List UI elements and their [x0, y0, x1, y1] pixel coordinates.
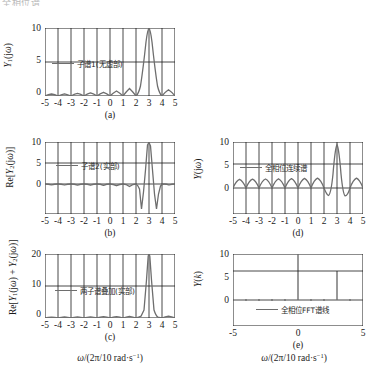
panel-d-legend: 全相位连续谱: [240, 162, 307, 173]
panel-b-legend-label: 子谱2(实部): [81, 160, 120, 171]
panel-e-plot: [233, 254, 363, 326]
panel-e: Y(k) 10 5 0: [184, 240, 368, 344]
panel-e-legend: 全相位FFT谱线: [256, 304, 329, 315]
panel-d-ylabel: Y(jω): [193, 145, 203, 193]
panel-e-xtick--5: -5: [223, 328, 243, 338]
panel-a-ytick-5: 5: [19, 55, 41, 65]
panel-b-xtick-5: 5: [165, 216, 185, 226]
panel-e-xtick-0: 0: [288, 328, 308, 338]
panel-b-legend: 子谱2(实部): [56, 160, 120, 171]
figure-root: 全相位谱 Y1(jω) 10 5 0: [0, 0, 368, 370]
panel-b-plot: [45, 142, 175, 214]
panel-c-ytick-20: 20: [16, 249, 41, 259]
panel-c-legend-line: [55, 290, 77, 291]
panel-a-ytick-0: 0: [19, 87, 41, 97]
panel-e-ylabel: Y(k): [193, 257, 203, 301]
panel-b-caption: (b): [80, 228, 140, 238]
panel-e-ytick-10: 10: [207, 249, 229, 259]
panel-d-caption: (d): [268, 228, 328, 238]
panel-a-ytick-10: 10: [19, 23, 41, 33]
left-column-xaxis-title: ω/(2π/10 rad·s−1): [30, 352, 190, 363]
panel-b-ytick-10: 10: [19, 137, 41, 147]
panel-d-ytick-0: 0: [207, 183, 229, 193]
panel-e-legend-label: 全相位FFT谱线: [281, 304, 329, 315]
panel-a-legend: 子谱1(无虚部): [52, 58, 123, 69]
right-column-xaxis-title: ω/(2π/10 rad·s−1): [214, 352, 368, 363]
panel-b-ytick-5: 5: [19, 158, 41, 168]
panel-c-ytick-0: 0: [16, 309, 41, 319]
panel-b-ylabel: Re[Y2(jω)]: [5, 137, 16, 197]
panel-c: Re[Y1(jω) + Y2(jω)] 20 10 0: [0, 240, 184, 344]
panel-a-legend-line: [52, 63, 74, 64]
panel-d-legend-line: [240, 167, 262, 168]
panel-c-legend-label: 两子谱叠加(实部): [80, 285, 135, 296]
panel-a: Y1(jω) 10 5 0: [0, 14, 184, 114]
panel-d: Y(jω) 10 5 0: [184, 128, 368, 232]
panel-c-ytick-10: 10: [16, 279, 41, 289]
panel-a-legend-label: 子谱1(无虚部): [77, 58, 123, 69]
panel-d-xtick-5: 5: [353, 216, 368, 226]
panel-e-legend-line: [256, 309, 278, 310]
panel-b-legend-line: [56, 165, 78, 166]
panel-e-ytick-0: 0: [207, 295, 229, 305]
panel-b-ytick-0: 0: [19, 179, 41, 189]
panel-d-legend-label: 全相位连续谱: [265, 162, 307, 173]
panel-e-caption: (e): [268, 340, 328, 350]
panel-d-ytick-5: 5: [207, 160, 229, 170]
panel-c-xtick-5: 5: [165, 320, 185, 330]
panel-d-plot: [233, 142, 363, 214]
panel-a-xtick-5: 5: [165, 98, 185, 108]
panel-b: Re[Y2(jω)] 10 5 0: [0, 128, 184, 232]
panel-d-ytick-10: 10: [207, 137, 229, 147]
panel-a-ylabel: Y1(jω): [3, 31, 14, 79]
panel-e-xtick-5: 5: [353, 328, 368, 338]
cut-off-heading: 全相位谱: [2, 0, 172, 6]
panel-e-ytick-5: 5: [207, 272, 229, 282]
panel-c-caption: (c): [80, 332, 140, 342]
panel-c-legend: 两子谱叠加(实部): [55, 285, 135, 296]
panel-a-caption: (a): [80, 110, 140, 120]
